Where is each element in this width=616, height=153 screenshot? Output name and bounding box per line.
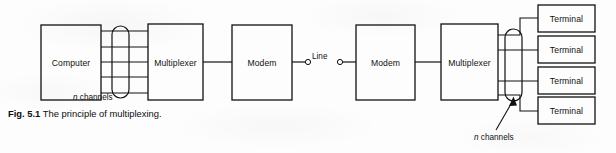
channel-bundle-bracket-right	[505, 29, 522, 101]
n-channels-text-right: channels	[479, 133, 514, 142]
n-channels-leader-line-right	[496, 104, 511, 130]
label-terminal-4: Terminal	[538, 106, 595, 116]
figure-container: Computer Multiplexer Modem Modem Multipl…	[0, 0, 616, 153]
n-channels-text-left: channels	[78, 93, 113, 102]
annotation-n-channels-right: n channels	[474, 133, 514, 142]
figure-caption-number: Fig. 5.1	[8, 108, 40, 119]
figure-caption: Fig. 5.1 The principle of multiplexing.	[8, 108, 208, 121]
line-connector-dot-right	[337, 59, 342, 64]
label-computer: Computer	[47, 58, 95, 68]
diagram-vector-layer	[0, 0, 616, 153]
annotation-n-channels-left: n channels	[73, 93, 113, 102]
figure-caption-text: The principle of multiplexing.	[43, 108, 162, 119]
label-modem-left: Modem	[238, 58, 286, 68]
label-terminal-3: Terminal	[538, 76, 595, 86]
label-terminal-1: Terminal	[538, 14, 595, 24]
label-multiplexer-right: Multiplexer	[442, 58, 497, 68]
channel-lines-right	[498, 18, 538, 111]
annotation-line-label: Line	[312, 52, 327, 61]
label-multiplexer-left: Multiplexer	[149, 58, 202, 68]
label-terminal-2: Terminal	[538, 45, 595, 55]
line-connector-dot-left	[305, 59, 310, 64]
label-modem-right: Modem	[362, 58, 409, 68]
channel-lines-left	[101, 31, 148, 93]
